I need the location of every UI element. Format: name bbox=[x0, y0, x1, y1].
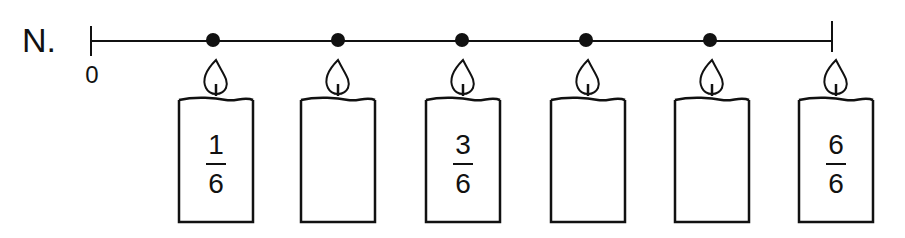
fraction-label: 6 6 bbox=[796, 130, 876, 199]
denominator: 6 bbox=[423, 169, 503, 199]
fraction-bar bbox=[206, 163, 226, 165]
fraction-label: 3 6 bbox=[423, 130, 503, 199]
candle-icon bbox=[298, 58, 378, 224]
tick-dot-4 bbox=[579, 33, 593, 47]
tick-dot-1 bbox=[206, 33, 220, 47]
tick-dot-2 bbox=[331, 33, 345, 47]
numerator: 6 bbox=[796, 130, 876, 160]
candle-5 bbox=[672, 58, 752, 224]
candle-3: 3 6 bbox=[423, 58, 503, 224]
candle-6: 6 6 bbox=[796, 58, 876, 224]
candle-icon bbox=[672, 58, 752, 224]
numerator: 3 bbox=[423, 130, 503, 160]
numerator: 1 bbox=[176, 130, 256, 160]
fraction-bar bbox=[453, 163, 473, 165]
denominator: 6 bbox=[796, 169, 876, 199]
candle-icon bbox=[548, 58, 628, 224]
zero-label: 0 bbox=[82, 62, 102, 88]
fraction-label: 1 6 bbox=[176, 130, 256, 199]
fraction-bar bbox=[826, 163, 846, 165]
tick-dot-5 bbox=[703, 33, 717, 47]
denominator: 6 bbox=[176, 169, 256, 199]
tick-dot-3 bbox=[455, 33, 469, 47]
candle-4 bbox=[548, 58, 628, 224]
candle-2 bbox=[298, 58, 378, 224]
candle-1: 1 6 bbox=[176, 58, 256, 224]
